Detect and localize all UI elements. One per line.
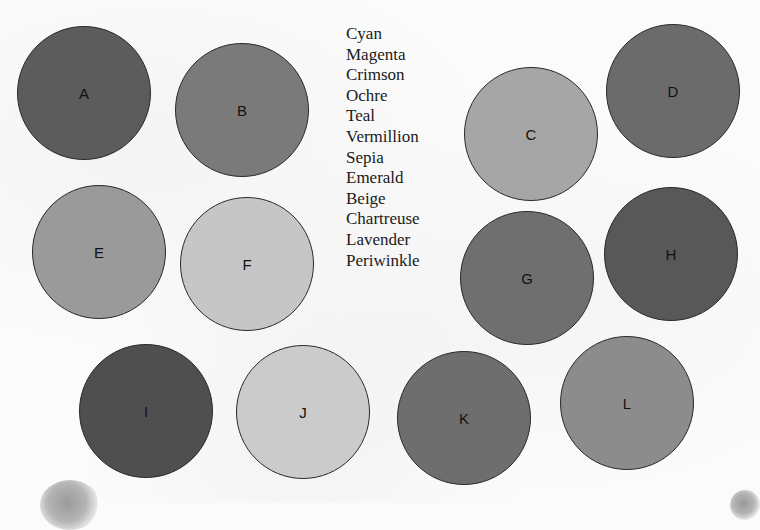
word-item: Magenta xyxy=(346,45,420,66)
circle-label: I xyxy=(144,404,148,419)
circle-c[interactable]: C xyxy=(464,67,598,201)
word-item: Teal xyxy=(346,106,420,127)
circle-label: B xyxy=(237,103,247,118)
circle-k[interactable]: K xyxy=(397,351,531,485)
circle-label: F xyxy=(242,257,251,272)
word-item: Sepia xyxy=(346,148,420,169)
circle-e[interactable]: E xyxy=(32,185,166,319)
circle-d[interactable]: D xyxy=(606,24,740,158)
circle-j[interactable]: J xyxy=(236,345,370,479)
circle-h[interactable]: H xyxy=(604,187,738,321)
circle-label: L xyxy=(623,396,631,411)
word-item: Emerald xyxy=(346,168,420,189)
circle-label: A xyxy=(79,86,89,101)
word-item: Periwinkle xyxy=(346,251,420,272)
word-item: Cyan xyxy=(346,24,420,45)
circle-g[interactable]: G xyxy=(460,211,594,345)
color-word-list: Cyan Magenta Crimson Ochre Teal Vermilli… xyxy=(346,24,420,271)
circle-label: C xyxy=(526,127,537,142)
word-item: Vermillion xyxy=(346,127,420,148)
word-item: Ochre xyxy=(346,86,420,107)
circle-label: K xyxy=(459,411,469,426)
word-item: Chartreuse xyxy=(346,209,420,230)
circle-b[interactable]: B xyxy=(175,43,309,177)
circle-l[interactable]: L xyxy=(560,336,694,470)
circle-i[interactable]: I xyxy=(79,344,213,478)
word-item: Lavender xyxy=(346,230,420,251)
circle-label: E xyxy=(94,245,104,260)
decorative-flower-right xyxy=(730,490,760,520)
circle-label: G xyxy=(521,271,533,286)
circle-a[interactable]: A xyxy=(17,26,151,160)
circle-label: H xyxy=(666,247,677,262)
word-item: Beige xyxy=(346,189,420,210)
circle-label: D xyxy=(668,84,679,99)
decorative-flower-left xyxy=(40,480,100,530)
word-item: Crimson xyxy=(346,65,420,86)
circle-f[interactable]: F xyxy=(180,197,314,331)
circle-label: J xyxy=(299,405,307,420)
